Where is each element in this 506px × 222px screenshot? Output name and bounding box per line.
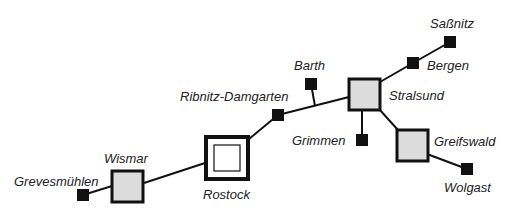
label-wolgast: Wolgast bbox=[444, 180, 492, 195]
label-wismar: Wismar bbox=[104, 151, 149, 166]
node-rostock-inner-icon bbox=[214, 145, 240, 171]
network-map: Grevesmühlen Wismar Rostock Ribnitz-Damg… bbox=[0, 0, 506, 222]
label-grimmen: Grimmen bbox=[292, 133, 345, 148]
node-bergen-icon bbox=[407, 57, 419, 69]
node-greifswald-icon bbox=[397, 130, 428, 161]
label-stralsund: Stralsund bbox=[389, 88, 445, 103]
node-sassnitz-icon bbox=[444, 36, 456, 48]
label-greifswald: Greifswald bbox=[434, 134, 496, 149]
node-barth-icon bbox=[305, 78, 317, 90]
edge-wismar-rostock bbox=[144, 163, 205, 183]
node-ribnitz-icon bbox=[272, 109, 284, 121]
label-rostock: Rostock bbox=[203, 187, 251, 202]
label-sassnitz: Saßnitz bbox=[430, 16, 475, 31]
label-barth: Barth bbox=[294, 58, 325, 73]
node-stralsund-icon bbox=[349, 79, 380, 110]
node-grimmen-icon bbox=[356, 134, 368, 146]
node-wismar-icon bbox=[112, 171, 143, 202]
node-wolgast-icon bbox=[461, 163, 473, 175]
edge-stralsund-greifswald bbox=[379, 109, 398, 130]
node-grevesmuehlen-icon bbox=[77, 189, 89, 201]
label-grevesmuehlen: Grevesmühlen bbox=[14, 174, 99, 189]
label-ribnitz: Ribnitz-Damgarten bbox=[180, 89, 288, 104]
label-bergen: Bergen bbox=[427, 58, 469, 73]
